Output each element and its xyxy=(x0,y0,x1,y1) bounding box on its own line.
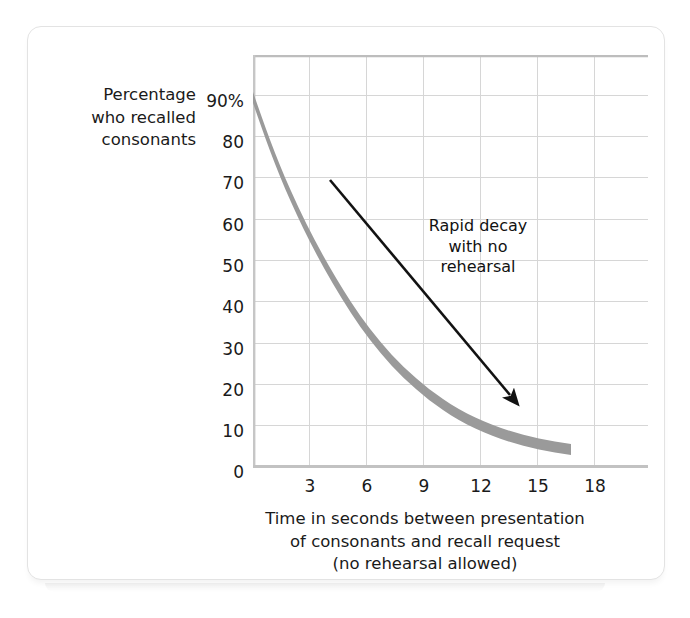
card-drop-shadow xyxy=(45,583,605,592)
y-tick-20: 20 xyxy=(160,382,244,399)
annotation-label: Rapid decay with no rehearsal xyxy=(408,216,548,278)
x-axis-title: Time in seconds between presentation of … xyxy=(200,508,650,576)
annotation-line-2: with no xyxy=(408,237,548,258)
x-tick-6: 6 xyxy=(342,476,392,496)
y-tick-0: 0 xyxy=(160,464,244,481)
x-tick-15: 15 xyxy=(513,476,563,496)
x-tick-3: 3 xyxy=(285,476,335,496)
y-tick-80: 80 xyxy=(160,134,244,151)
y-tick-40: 40 xyxy=(160,299,244,316)
annotation-line-1: Rapid decay xyxy=(408,216,548,237)
y-tick-10: 10 xyxy=(160,423,244,440)
annotation-line-3: rehearsal xyxy=(408,257,548,278)
y-tick-30: 30 xyxy=(160,341,244,358)
x-axis-title-line-1: Time in seconds between presentation xyxy=(200,508,650,531)
x-tick-12: 12 xyxy=(456,476,506,496)
y-tick-60: 60 xyxy=(160,217,244,234)
x-tick-18: 18 xyxy=(570,476,620,496)
y-tick-50: 50 xyxy=(160,258,244,275)
annotation-arrow xyxy=(330,180,510,395)
x-axis-tick-labels: 3 6 9 12 15 18 xyxy=(253,476,653,500)
x-axis-title-line-2: of consonants and recall request xyxy=(200,531,650,554)
y-tick-90: 90% xyxy=(160,93,244,110)
x-axis-title-line-3: (no rehearsal allowed) xyxy=(200,553,650,576)
x-tick-9: 9 xyxy=(399,476,449,496)
y-tick-70: 70 xyxy=(160,175,244,192)
